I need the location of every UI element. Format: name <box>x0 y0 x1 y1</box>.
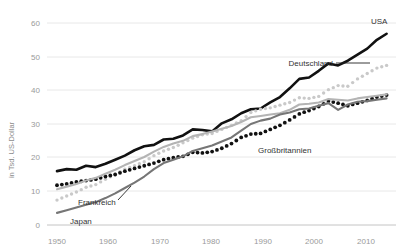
series-line <box>57 98 387 212</box>
series-marker <box>317 95 320 98</box>
series-marker <box>162 158 166 162</box>
series-marker <box>70 192 73 195</box>
series-marker <box>283 102 286 105</box>
y-tick-20: 20 <box>31 153 40 162</box>
series-marker <box>94 183 97 186</box>
y-axis-title: in Tsd. US-Dollar <box>7 121 16 178</box>
series-marker <box>210 150 214 154</box>
y-tick-60: 60 <box>31 19 40 28</box>
series-marker <box>99 180 102 183</box>
series-marker <box>152 161 156 165</box>
series-marker <box>336 84 339 87</box>
series-marker <box>138 165 142 169</box>
series-marker <box>249 111 252 114</box>
y-tick-50: 50 <box>31 53 40 62</box>
series-marker <box>84 186 87 189</box>
series-marker <box>254 132 258 136</box>
series-marker <box>138 162 141 165</box>
series-marker <box>375 66 378 69</box>
series-marker <box>346 85 349 88</box>
series-marker <box>331 100 335 104</box>
chart-container: 60 50 40 30 20 10 0 1950 1960 1970 1980 … <box>0 0 402 252</box>
series-marker <box>234 139 238 143</box>
series-marker <box>123 169 127 173</box>
series-marker <box>370 69 373 72</box>
series-marker <box>162 149 165 152</box>
series-marker <box>128 168 132 172</box>
series-marker <box>176 144 179 147</box>
series-marker <box>60 196 63 199</box>
series-marker <box>273 105 276 108</box>
series-deutschland <box>55 64 388 202</box>
series-marker <box>133 167 137 171</box>
x-tick-2010: 2010 <box>357 237 375 246</box>
series-marker <box>283 121 287 125</box>
series-label-japan: Japan <box>70 217 92 226</box>
series-marker <box>147 163 151 167</box>
series-label-grossbritannien: Großbritannien <box>258 146 311 155</box>
series-marker <box>80 188 83 191</box>
line-chart: 60 50 40 30 20 10 0 1950 1960 1970 1980 … <box>0 0 402 252</box>
series-marker <box>157 159 161 163</box>
series-marker <box>113 173 117 177</box>
series-marker <box>288 101 291 104</box>
series-marker <box>167 148 170 151</box>
series-marker <box>254 109 257 112</box>
series-marker <box>249 132 253 136</box>
series-marker <box>380 65 383 68</box>
series-marker <box>297 112 301 116</box>
series-marker <box>264 107 267 110</box>
series-marker <box>259 107 262 110</box>
y-tick-0: 0 <box>36 221 41 230</box>
series-marker <box>201 151 205 155</box>
series-marker <box>302 110 306 114</box>
series-marker <box>152 154 155 157</box>
series-marker <box>322 91 325 94</box>
series-layer <box>55 34 388 213</box>
series-marker <box>118 171 122 175</box>
series-marker <box>244 134 248 138</box>
series-marker <box>60 183 64 187</box>
series-marker <box>205 150 209 154</box>
series-marker <box>89 184 92 187</box>
series-marker <box>220 146 224 150</box>
x-tick-1960: 1960 <box>99 237 117 246</box>
series-marker <box>55 198 58 201</box>
series-marker <box>298 96 301 99</box>
series-marker <box>268 127 272 131</box>
series-marker <box>215 148 219 152</box>
series-marker <box>361 74 364 77</box>
y-axis-tick-labels: 60 50 40 30 20 10 0 <box>31 19 40 230</box>
series-marker <box>288 118 292 122</box>
x-tick-2000: 2000 <box>305 237 323 246</box>
series-label-frankreich: Frankreich <box>78 198 116 207</box>
x-tick-1990: 1990 <box>254 237 272 246</box>
series-japan <box>57 98 387 212</box>
series-marker <box>278 123 282 127</box>
series-marker <box>366 72 369 75</box>
x-axis-tick-labels: 1950 1960 1970 1980 1990 2000 2010 <box>48 237 375 246</box>
series-marker <box>75 190 78 193</box>
series-marker <box>142 164 146 168</box>
series-label-deutschland: Deutschland <box>289 59 333 68</box>
series-marker <box>55 183 59 187</box>
series-marker <box>327 88 330 91</box>
series-marker <box>196 151 200 155</box>
x-tick-1970: 1970 <box>151 237 169 246</box>
series-marker <box>239 136 243 140</box>
series-marker <box>147 157 150 160</box>
series-marker <box>264 130 268 134</box>
series-label-usa: USA <box>371 17 388 26</box>
series-marker <box>157 152 160 155</box>
y-tick-40: 40 <box>31 86 40 95</box>
series-marker <box>303 96 306 99</box>
series-marker <box>172 146 175 149</box>
series-marker <box>293 98 296 101</box>
series-marker <box>341 84 344 87</box>
x-tick-1950: 1950 <box>48 237 66 246</box>
series-marker <box>356 77 359 80</box>
series-marker <box>65 194 68 197</box>
series-marker <box>336 101 340 105</box>
series-marker <box>244 115 247 118</box>
series-marker <box>108 174 112 178</box>
